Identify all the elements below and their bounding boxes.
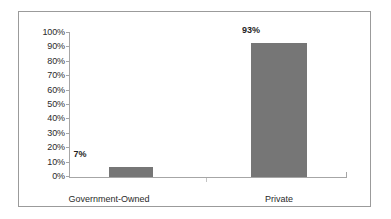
y-axis-tick-label: 50% bbox=[19, 98, 65, 110]
y-axis-tick-label: 20% bbox=[19, 141, 65, 153]
category-axis-line bbox=[69, 177, 347, 178]
plot-area bbox=[70, 33, 346, 177]
y-axis: 100% 90% 80% 70% 60% 50% 40% 30% 20% 10%… bbox=[19, 26, 65, 184]
category-axis-end-tick bbox=[346, 172, 347, 178]
y-axis-tick-label: 90% bbox=[19, 40, 65, 52]
bar-private[interactable] bbox=[251, 43, 307, 177]
bar-government-owned[interactable] bbox=[109, 167, 153, 177]
y-axis-tick-label: 40% bbox=[19, 112, 65, 124]
chart-frame: 100% 90% 80% 70% 60% 50% 40% 30% 20% 10%… bbox=[18, 11, 371, 207]
y-axis-tick-label: 0% bbox=[19, 170, 65, 182]
category-label-private: Private bbox=[215, 193, 343, 205]
category-axis-tick bbox=[206, 178, 207, 182]
y-axis-tick-label: 30% bbox=[19, 127, 65, 139]
y-axis-tick-label: 100% bbox=[19, 26, 65, 38]
y-axis-tick-label: 60% bbox=[19, 84, 65, 96]
data-label-private: 93% bbox=[233, 25, 269, 36]
category-label-government-owned: Government-Owned bbox=[45, 193, 173, 205]
y-axis-tick-label: 10% bbox=[19, 156, 65, 168]
y-axis-tick-label: 80% bbox=[19, 55, 65, 67]
y-axis-tick-label: 70% bbox=[19, 69, 65, 81]
data-label-government-owned: 7% bbox=[62, 149, 98, 160]
bar-chart-figure: 100% 90% 80% 70% 60% 50% 40% 30% 20% 10%… bbox=[0, 0, 391, 219]
